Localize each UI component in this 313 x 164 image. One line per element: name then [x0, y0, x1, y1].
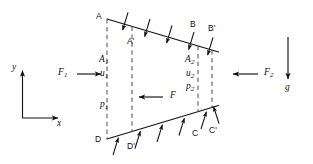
bottom-edge-DC [107, 106, 219, 140]
vertex-label-C-prime: C' [209, 126, 217, 135]
left-face-pressure-label: p1 [100, 100, 108, 111]
right-force-label: F2 [264, 68, 273, 79]
pressure-arrow-bottom-2 [135, 131, 140, 148]
right-face-area-label: A2 [185, 55, 194, 66]
pressure-arrow-bottom-6 [214, 107, 220, 124]
vertex-label-C: C [192, 129, 198, 138]
vertex-label-A-prime: A' [127, 37, 135, 46]
vertex-label-A: A [96, 12, 102, 21]
wall-force-label: F [170, 91, 176, 101]
left-force-label: F1 [58, 68, 67, 79]
vertex-label-B: B [190, 20, 196, 29]
coordinate-axes [23, 71, 59, 119]
section-lines [107, 19, 212, 139]
right-face-velocity-subscript: 2 [191, 72, 195, 80]
pressure-arrow-bottom-1 [113, 138, 118, 155]
vertex-label-D-prime: D' [127, 142, 135, 151]
left-face-velocity-subscript: 1 [105, 72, 109, 80]
right-face-velocity-label: u2 [186, 69, 194, 80]
left-face-velocity-label: u1 [100, 69, 108, 80]
control-volume-figure: A A' B B' C C' D D' A1 u1 p1 F1 A2 u2 p2… [0, 0, 313, 164]
top-edge-AB [107, 19, 219, 52]
figure-drawing [0, 0, 313, 164]
pressure-arrow-top-2 [145, 19, 150, 37]
vertex-label-D: D [95, 135, 101, 144]
y-axis-label: y [12, 63, 16, 73]
right-face-pressure-subscript: 2 [191, 85, 195, 93]
control-volume-outline [107, 19, 219, 139]
left-face-area-label: A1 [99, 55, 108, 66]
force-arrows [77, 37, 288, 97]
right-face-area-subscript: 2 [191, 58, 195, 66]
pressure-arrow-bottom-3 [157, 125, 162, 142]
x-axis-label: x [57, 119, 61, 129]
pressure-arrow-top-3 [167, 26, 172, 44]
pressure-arrow-bottom-4 [179, 118, 184, 135]
top-pressure-arrows [123, 13, 213, 56]
pressure-arrow-top-1 [123, 13, 128, 31]
gravity-label: g [285, 83, 290, 93]
pressure-arrow-bottom-5 [201, 112, 206, 129]
left-force-subscript: 1 [64, 71, 68, 79]
right-face-pressure-label: p2 [186, 82, 194, 93]
left-face-area-subscript: 1 [105, 58, 109, 66]
vertex-label-B-prime: B' [208, 24, 216, 33]
right-force-subscript: 2 [270, 71, 274, 79]
pressure-arrow-top-4 [189, 32, 194, 50]
left-face-pressure-subscript: 1 [105, 103, 109, 111]
